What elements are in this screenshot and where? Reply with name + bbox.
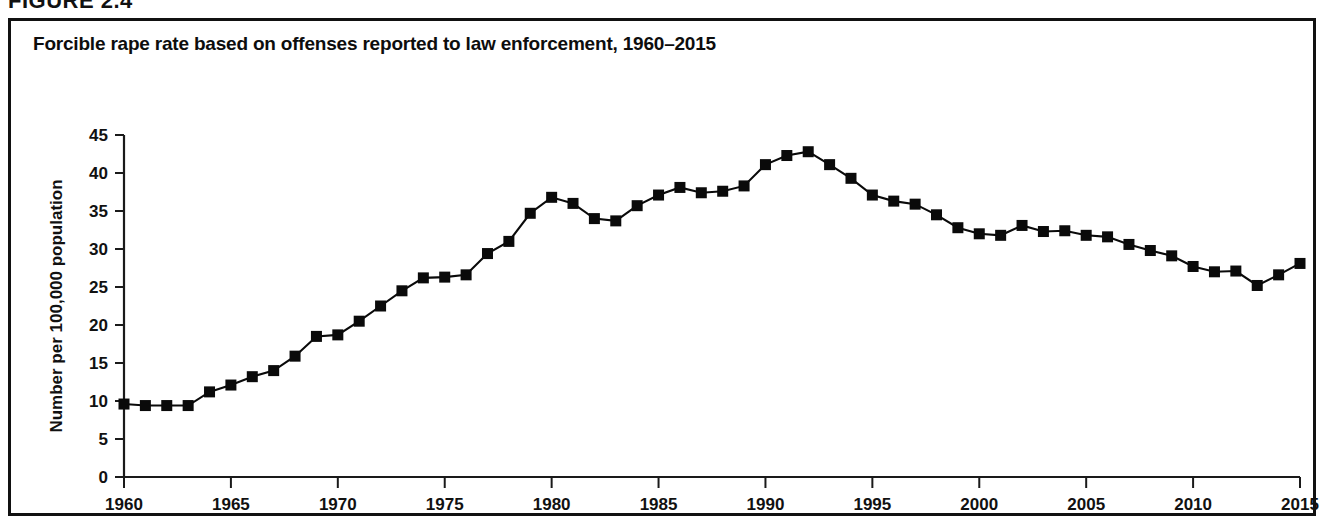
data-point-marker	[1081, 230, 1092, 241]
data-point-marker	[931, 209, 942, 220]
data-point-marker	[311, 331, 322, 342]
x-axis-tick-label: 1960	[105, 495, 143, 514]
data-point-marker	[803, 146, 814, 157]
x-axis-tick-label: 1975	[426, 495, 464, 514]
data-point-marker	[696, 187, 707, 198]
data-point-marker	[418, 272, 429, 283]
data-point-marker	[589, 213, 600, 224]
y-axis-tick-label: 10	[89, 392, 108, 411]
data-point-marker	[1145, 245, 1156, 256]
x-axis-tick-label: 1970	[319, 495, 357, 514]
data-point-marker	[1230, 266, 1241, 277]
data-point-marker	[952, 222, 963, 233]
data-point-marker	[225, 380, 236, 391]
x-axis-tick-label: 1995	[853, 495, 891, 514]
data-point-marker	[546, 192, 557, 203]
data-point-marker	[439, 272, 450, 283]
data-point-marker	[760, 159, 771, 170]
data-point-marker	[1038, 226, 1049, 237]
y-axis-tick-label: 40	[89, 164, 108, 183]
data-point-marker	[674, 182, 685, 193]
y-axis-tick-label: 30	[89, 240, 108, 259]
y-axis-tick-label: 0	[99, 468, 108, 487]
data-point-marker	[290, 351, 301, 362]
data-point-marker	[1017, 220, 1028, 231]
data-point-marker	[888, 196, 899, 207]
data-point-marker	[781, 150, 792, 161]
data-point-marker	[824, 159, 835, 170]
x-axis-tick-label: 2005	[1067, 495, 1105, 514]
data-point-marker	[739, 180, 750, 191]
data-point-marker	[204, 386, 215, 397]
data-point-marker	[375, 301, 386, 312]
data-point-marker	[1166, 250, 1177, 261]
data-point-marker	[1209, 266, 1220, 277]
y-axis-tick-label: 15	[89, 354, 108, 373]
data-point-marker	[1123, 239, 1134, 250]
data-point-marker	[1188, 261, 1199, 272]
data-point-marker	[867, 190, 878, 201]
data-point-marker	[1059, 225, 1070, 236]
data-point-marker	[974, 228, 985, 239]
data-point-marker	[354, 316, 365, 327]
x-axis-tick-label: 2000	[960, 495, 998, 514]
data-point-marker	[482, 248, 493, 259]
data-point-marker	[332, 329, 343, 340]
x-axis-tick-label: 1980	[533, 495, 571, 514]
data-point-marker	[247, 371, 258, 382]
y-axis-tick-label: 20	[89, 316, 108, 335]
x-axis-tick-label: 2015	[1281, 495, 1319, 514]
data-point-marker	[1295, 258, 1306, 269]
data-point-marker	[161, 400, 172, 411]
y-axis-tick-label: 45	[89, 126, 108, 145]
line-chart-plot: 0510152025303540451960196519701975198019…	[0, 0, 1331, 525]
data-point-marker	[845, 173, 856, 184]
data-point-marker	[610, 215, 621, 226]
data-point-marker	[503, 236, 514, 247]
x-axis-tick-label: 2010	[1174, 495, 1212, 514]
data-point-marker	[568, 198, 579, 209]
y-axis-title: Number per 100,000 population	[47, 179, 66, 432]
data-point-marker	[461, 269, 472, 280]
data-point-marker	[1102, 231, 1113, 242]
data-point-marker	[1273, 269, 1284, 280]
x-axis-tick-label: 1990	[747, 495, 785, 514]
data-point-marker	[717, 186, 728, 197]
data-point-marker	[119, 399, 130, 410]
data-point-marker	[183, 400, 194, 411]
x-axis-tick-label: 1985	[640, 495, 678, 514]
y-axis-tick-label: 25	[89, 278, 108, 297]
figure-root: FIGURE 2.4 Forcible rape rate based on o…	[0, 0, 1331, 525]
data-point-marker	[995, 230, 1006, 241]
data-point-marker	[653, 190, 664, 201]
y-axis-tick-label: 35	[89, 202, 108, 221]
data-point-marker	[525, 208, 536, 219]
data-point-marker	[396, 285, 407, 296]
x-axis-tick-label: 1965	[212, 495, 250, 514]
data-point-marker	[632, 200, 643, 211]
data-point-marker	[140, 400, 151, 411]
y-axis-tick-label: 5	[99, 430, 108, 449]
series-line-rape-rate	[124, 152, 1300, 406]
data-point-marker	[910, 199, 921, 210]
data-point-marker	[268, 365, 279, 376]
data-point-marker	[1252, 280, 1263, 291]
